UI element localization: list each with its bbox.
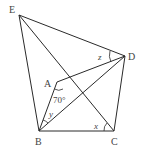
angle-label-y: y xyxy=(48,109,53,119)
segment-ED xyxy=(19,15,125,56)
angle-label-70: 70° xyxy=(53,95,66,105)
point-label-C: C xyxy=(111,136,118,147)
angle-arc-A xyxy=(55,89,64,90)
segment-CD xyxy=(114,56,125,131)
point-label-A: A xyxy=(44,78,52,89)
segment-EC xyxy=(19,15,114,131)
point-label-E: E xyxy=(9,4,15,15)
angle-arc-y xyxy=(43,120,48,123)
segment-BD xyxy=(39,56,125,131)
angle-label-z: z xyxy=(97,52,102,62)
angle-label-x: x xyxy=(93,121,98,131)
segment-EB xyxy=(19,15,39,131)
point-label-B: B xyxy=(35,136,42,147)
point-label-D: D xyxy=(128,51,135,62)
geometry-diagram: E D A B C 70° y x z xyxy=(0,0,147,153)
angle-arc-x xyxy=(104,123,107,131)
segment-AD xyxy=(57,56,125,82)
angle-arc-z xyxy=(109,51,111,62)
